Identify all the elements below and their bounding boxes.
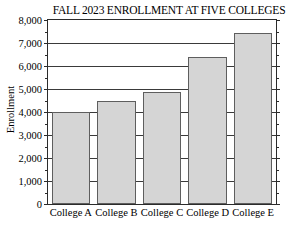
bar bbox=[234, 33, 272, 204]
chart-title: FALL 2023 ENROLLMENT AT FIVE COLLEGES bbox=[52, 4, 286, 17]
y-tick-label: 1,000 bbox=[18, 176, 42, 187]
plot-area: 01,0002,0003,0004,0005,0006,0007,0008,00… bbox=[47, 19, 277, 205]
y-tick-label: 2,000 bbox=[18, 153, 42, 164]
y-tick-minor bbox=[276, 170, 279, 171]
x-tick-label: College D bbox=[186, 207, 229, 218]
y-tick-minor bbox=[276, 147, 279, 148]
y-tick-label: 5,000 bbox=[18, 84, 42, 95]
x-tick-label: College E bbox=[232, 207, 274, 218]
y-tick-label: 0 bbox=[37, 199, 42, 210]
y-tick-label: 7,000 bbox=[18, 38, 42, 49]
y-tick-major bbox=[276, 66, 280, 67]
bar-chart: FALL 2023 ENROLLMENT AT FIVE COLLEGES En… bbox=[0, 0, 286, 233]
bar bbox=[97, 101, 135, 204]
y-tick-major bbox=[44, 204, 48, 205]
y-tick-major bbox=[276, 181, 280, 182]
x-tick-label: College B bbox=[95, 207, 137, 218]
x-tick-label: College A bbox=[50, 207, 92, 218]
bar bbox=[143, 92, 181, 204]
y-tick-label: 3,000 bbox=[18, 130, 42, 141]
x-tick-label: College C bbox=[141, 207, 183, 218]
y-tick-major bbox=[276, 20, 280, 21]
y-tick-major bbox=[276, 204, 280, 205]
y-tick-minor bbox=[276, 78, 279, 79]
bars-group bbox=[48, 20, 276, 204]
y-tick-label: 6,000 bbox=[18, 61, 42, 72]
y-tick-major bbox=[276, 43, 280, 44]
y-tick-minor bbox=[276, 101, 279, 102]
y-tick-major bbox=[276, 112, 280, 113]
y-tick-minor bbox=[276, 193, 279, 194]
y-axis-title: Enrollment bbox=[5, 68, 16, 152]
y-tick-major bbox=[276, 135, 280, 136]
bar bbox=[52, 112, 90, 204]
y-tick-minor bbox=[276, 32, 279, 33]
y-tick-minor bbox=[276, 124, 279, 125]
y-tick-label: 8,000 bbox=[18, 15, 42, 26]
y-tick-label: 4,000 bbox=[18, 107, 42, 118]
y-tick-minor bbox=[276, 55, 279, 56]
y-tick-major bbox=[276, 89, 280, 90]
bar bbox=[188, 57, 226, 204]
y-tick-major bbox=[276, 158, 280, 159]
